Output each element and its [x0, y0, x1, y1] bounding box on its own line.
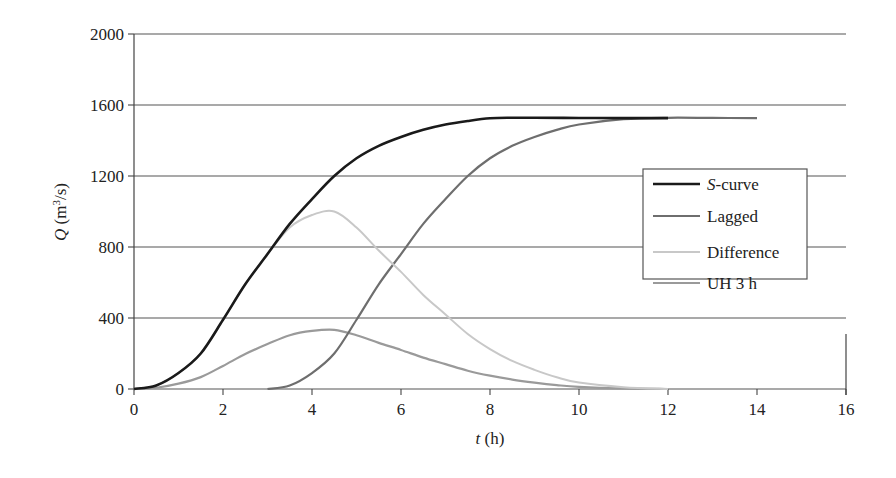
x-tick-label: 14: [749, 400, 767, 419]
x-tick-label: 8: [486, 400, 495, 419]
x-tick-label: 2: [219, 400, 228, 419]
legend-label: S-curve: [707, 175, 759, 194]
y-tick-label: 400: [99, 309, 125, 328]
x-tick-label: 12: [660, 400, 677, 419]
series-difference: [134, 211, 668, 389]
y-tick-label: 0: [116, 380, 125, 399]
legend-label: Difference: [707, 243, 779, 262]
x-tick-label: 4: [308, 400, 317, 419]
x-axis-label: t (h): [476, 429, 505, 448]
x-tick-label: 0: [130, 400, 139, 419]
y-tick-label: 1600: [90, 96, 124, 115]
legend: S-curve Lagged Difference UH 3 h: [643, 169, 807, 293]
x-tick-label: 10: [571, 400, 588, 419]
y-tick-label: 2000: [90, 25, 124, 44]
legend-label: UH 3 h: [707, 274, 758, 293]
y-tick-label: 1200: [90, 167, 124, 186]
y-axis-label: Q (m3/s): [50, 183, 70, 241]
x-axis-ticks: 0246810121416: [130, 389, 855, 419]
series-uh-3-h: [134, 330, 668, 389]
legend-label: Lagged: [707, 207, 758, 226]
x-tick-label: 16: [838, 400, 855, 419]
y-tick-label: 800: [99, 238, 125, 257]
line-chart: 0246810121416 0400800120016002000 t (h) …: [0, 0, 896, 478]
x-tick-label: 6: [397, 400, 406, 419]
y-axis-ticks: 0400800120016002000: [90, 25, 134, 399]
